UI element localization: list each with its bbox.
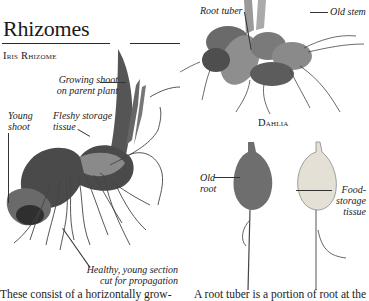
- label-old-root-line2: root: [200, 183, 216, 194]
- label-growing-shoot-line2: on parent plant: [38, 85, 118, 96]
- label-healthy-section-line2: cut for propagation: [84, 275, 178, 286]
- label-fleshy-storage-line2: tissue: [53, 121, 112, 132]
- heading-rule-left: [2, 43, 110, 44]
- label-old-stem: Old stem: [330, 6, 366, 17]
- leader-food-storage: [296, 190, 332, 191]
- body-text-right-column: A root tuber is a portion of root at the: [194, 287, 366, 301]
- label-growing-shoot: Growing shoot on parent plant: [38, 74, 118, 96]
- top-stub-mark: ': [56, 0, 58, 9]
- label-healthy-section-line1: Healthy, young section: [84, 264, 178, 275]
- label-fleshy-storage: Fleshy storage tissue: [53, 110, 112, 132]
- label-growing-shoot-line1: Growing shoot: [38, 74, 118, 85]
- label-food-storage-line2: storage: [330, 195, 366, 206]
- leader-old-stem: [310, 12, 328, 13]
- body-text-left-column: These consist of a horizontally grow-: [0, 287, 172, 301]
- label-old-root: Old root: [200, 172, 216, 194]
- heading-rule-right: [130, 43, 180, 44]
- label-root-tuber: Root tuber: [200, 5, 243, 16]
- label-fleshy-storage-line1: Fleshy storage: [53, 110, 112, 121]
- leader-growing-shoot: [100, 82, 126, 83]
- leader-old-root: [214, 177, 240, 178]
- label-young-shoot-line2: shoot: [8, 121, 33, 132]
- page-heading: Rhizomes: [3, 17, 89, 41]
- dahlia-tuber-illustration: [180, 0, 369, 120]
- label-food-storage-line3: tissue: [330, 206, 366, 217]
- leader-young-shoot: [8, 133, 9, 203]
- label-young-shoot: Young shoot: [8, 110, 33, 132]
- label-young-shoot-line1: Young: [8, 110, 33, 121]
- label-food-storage: Food- storage tissue: [330, 184, 366, 217]
- dahlia-caption: Dahlia: [258, 117, 289, 128]
- label-food-storage-line1: Food-: [330, 184, 366, 195]
- label-healthy-section: Healthy, young section cut for propagati…: [84, 264, 178, 286]
